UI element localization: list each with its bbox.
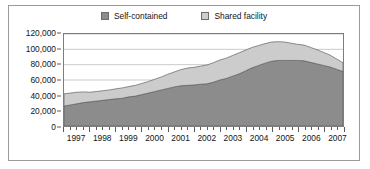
x-axis-tick-mark [279, 127, 280, 130]
x-axis-tick-mark [298, 127, 299, 132]
y-axis-tick-label: 20,000 [30, 107, 56, 115]
x-axis-tick-mark [141, 127, 142, 132]
x-axis-tick-mark [135, 127, 136, 130]
legend-label-self-contained: Self-contained [114, 12, 168, 20]
y-axis-tick-mark [57, 80, 61, 81]
chart-figure: Self-contained Shared facility 020,00040… [8, 5, 360, 161]
x-axis-tick-mark [63, 127, 64, 132]
y-axis-tick-label: 120,000 [26, 29, 56, 37]
chart-legend: Self-contained Shared facility [9, 12, 359, 20]
y-axis-tick-label: 0 [51, 123, 56, 131]
y-axis-tick-mark [57, 33, 61, 34]
legend-swatch-self-contained [101, 12, 109, 20]
x-axis-tick-mark [122, 127, 123, 130]
legend-label-shared-facility: Shared facility [214, 12, 267, 20]
y-axis-tick-label: 100,000 [26, 44, 56, 52]
y-axis-tick-mark [57, 64, 61, 65]
x-axis-tick-mark [128, 127, 129, 130]
x-axis-tick-label: 2002 [197, 134, 216, 142]
x-axis-tick-mark [109, 127, 110, 130]
y-axis-tick-mark [57, 95, 61, 96]
y-axis-tick-label: 80,000 [30, 60, 56, 68]
x-axis: 1997199819992000200120022003200420052006… [63, 127, 344, 157]
x-axis-tick-mark [337, 127, 338, 130]
x-axis-tick-mark [213, 127, 214, 130]
x-axis-tick-mark [154, 127, 155, 130]
y-axis-tick-mark [57, 127, 61, 128]
y-axis-tick-label: 40,000 [30, 91, 56, 99]
x-axis-tick-mark [89, 127, 90, 132]
x-axis-tick-mark [161, 127, 162, 130]
area-chart-svg [64, 34, 343, 126]
x-axis-tick-mark [194, 127, 195, 132]
x-axis-tick-mark [96, 127, 97, 130]
x-axis-tick-label: 2000 [145, 134, 164, 142]
x-axis-tick-mark [246, 127, 247, 132]
x-axis-tick-mark [311, 127, 312, 130]
x-axis-tick-label: 1998 [93, 134, 112, 142]
x-axis-tick-label: 2007 [328, 134, 347, 142]
x-axis-tick-mark [305, 127, 306, 130]
x-axis-tick-mark [318, 127, 319, 130]
x-axis-tick-label: 1999 [119, 134, 138, 142]
x-axis-tick-mark [200, 127, 201, 130]
x-axis-tick-label: 2003 [224, 134, 243, 142]
x-axis-tick-mark [70, 127, 71, 130]
x-axis-tick-mark [331, 127, 332, 130]
y-axis-tick-label: 60,000 [30, 76, 56, 84]
x-axis-tick-mark [207, 127, 208, 130]
x-axis-tick-mark [272, 127, 273, 132]
x-axis-tick-label: 1997 [67, 134, 86, 142]
legend-swatch-shared-facility [201, 12, 209, 20]
x-axis-tick-mark [168, 127, 169, 132]
x-axis-tick-mark [285, 127, 286, 130]
x-axis-tick-mark [292, 127, 293, 130]
x-axis-tick-mark [83, 127, 84, 130]
legend-item-self-contained[interactable]: Self-contained [101, 12, 168, 20]
x-axis-tick-mark [253, 127, 254, 130]
plot-area [63, 33, 344, 127]
legend-item-shared-facility[interactable]: Shared facility [201, 12, 267, 20]
x-axis-tick-label: 2005 [276, 134, 295, 142]
x-axis-tick-mark [324, 127, 325, 132]
x-axis-tick-mark [226, 127, 227, 130]
x-axis-tick-mark [115, 127, 116, 132]
x-axis-tick-label: 2001 [171, 134, 190, 142]
x-axis-tick-mark [344, 127, 345, 132]
x-axis-tick-mark [187, 127, 188, 130]
x-axis-tick-mark [233, 127, 234, 130]
x-axis-tick-mark [148, 127, 149, 130]
x-axis-tick-mark [174, 127, 175, 130]
x-axis-tick-mark [239, 127, 240, 130]
x-axis-tick-label: 2006 [302, 134, 321, 142]
y-axis-tick-mark [57, 48, 61, 49]
x-axis-tick-label: 2004 [250, 134, 269, 142]
x-axis-tick-mark [76, 127, 77, 130]
x-axis-tick-mark [181, 127, 182, 130]
x-axis-tick-mark [259, 127, 260, 130]
x-axis-tick-mark [102, 127, 103, 130]
y-axis-tick-mark [57, 111, 61, 112]
y-axis: 020,00040,00060,00080,000100,000120,000 [9, 33, 61, 127]
x-axis-tick-mark [266, 127, 267, 130]
x-axis-tick-mark [220, 127, 221, 132]
